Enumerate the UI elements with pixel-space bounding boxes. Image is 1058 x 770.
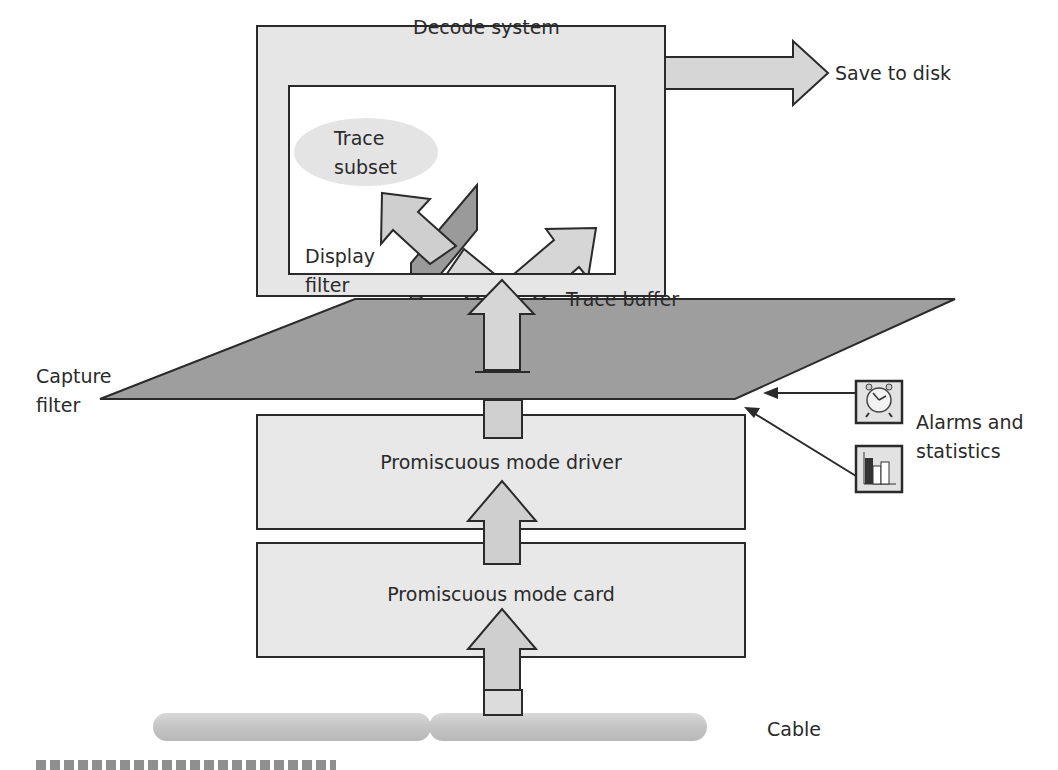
driver-to-filter-connector bbox=[484, 400, 522, 438]
cable-label: Cable bbox=[767, 717, 821, 741]
trace-subset-label-line1: Trace bbox=[334, 126, 384, 150]
display-filter-label-line1: Display bbox=[305, 244, 375, 268]
trace-subset-label-line2: subset bbox=[334, 155, 397, 179]
statistics-arrow bbox=[744, 407, 856, 476]
save-to-disk-arrow bbox=[665, 41, 828, 105]
cable-connector bbox=[484, 690, 522, 715]
promiscuous-driver-label: Promiscuous mode driver bbox=[257, 450, 745, 474]
cable bbox=[153, 713, 707, 741]
alarm-clock-icon bbox=[856, 381, 902, 423]
diagram-canvas bbox=[0, 0, 1058, 770]
alarm-arrow bbox=[763, 387, 856, 399]
promiscuous-card-label: Promiscuous mode card bbox=[257, 582, 745, 606]
bar-chart-icon bbox=[856, 446, 902, 492]
save-to-disk-label: Save to disk bbox=[835, 61, 951, 85]
capture-filter-label-line2: filter bbox=[36, 393, 80, 417]
capture-filter-label-line1: Capture bbox=[36, 364, 112, 388]
decode-system-label: Decode system bbox=[413, 15, 560, 39]
figure-caption-clipped bbox=[36, 760, 336, 770]
display-filter-label-line2: filter bbox=[305, 273, 349, 297]
alarms-statistics-label-line1: Alarms and bbox=[916, 410, 1024, 434]
alarms-statistics-label-line2: statistics bbox=[916, 439, 1001, 463]
trace-buffer-label: Trace buffer bbox=[566, 287, 679, 311]
